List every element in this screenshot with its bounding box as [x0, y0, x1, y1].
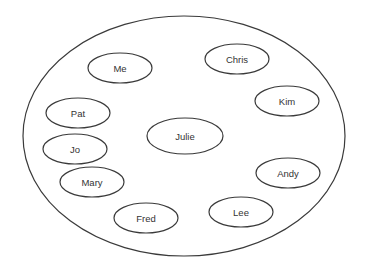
member-lee: Lee: [209, 197, 273, 227]
member-pat: Pat: [46, 98, 110, 128]
set-diagram: Me Chris Kim Pat Julie Jo Mary Andy Fred…: [0, 0, 367, 279]
member-andy: Andy: [256, 158, 320, 188]
member-julie: Julie: [147, 118, 223, 154]
member-label: Me: [113, 63, 126, 74]
member-me: Me: [88, 53, 152, 83]
member-jo: Jo: [43, 134, 107, 164]
member-label: Lee: [233, 207, 249, 218]
member-label: Andy: [277, 168, 299, 179]
member-label: Fred: [136, 213, 156, 224]
member-kim: Kim: [255, 86, 319, 116]
member-chris: Chris: [205, 44, 269, 74]
member-mary: Mary: [60, 167, 124, 197]
member-fred: Fred: [114, 203, 178, 233]
member-label: Kim: [279, 96, 295, 107]
member-label: Jo: [70, 144, 80, 155]
member-label: Mary: [81, 177, 102, 188]
member-label: Julie: [175, 131, 195, 142]
member-label: Chris: [226, 54, 248, 65]
member-label: Pat: [71, 108, 86, 119]
